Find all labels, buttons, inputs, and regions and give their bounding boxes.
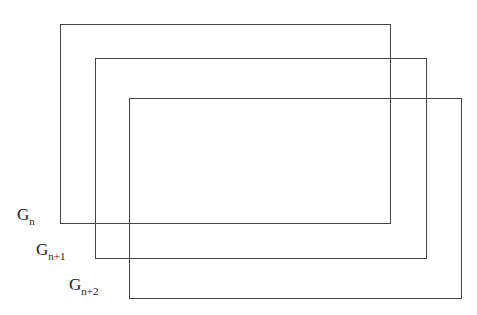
label-gn-plus-2: Gn+2	[69, 276, 99, 297]
label-gn: Gn	[17, 206, 35, 227]
label-gn-sub: n	[29, 215, 35, 227]
rectangle-gn-plus-2	[129, 98, 462, 299]
label-gn-plus-1-main: G	[36, 240, 48, 259]
label-gn-main: G	[17, 205, 29, 224]
label-gn-plus-1-sub: n+1	[48, 250, 65, 262]
label-gn-plus-2-sub: n+2	[81, 285, 98, 297]
label-gn-plus-1: Gn+1	[36, 241, 66, 262]
diagram-canvas: Gn Gn+1 Gn+2	[0, 0, 477, 315]
label-gn-plus-2-main: G	[69, 275, 81, 294]
